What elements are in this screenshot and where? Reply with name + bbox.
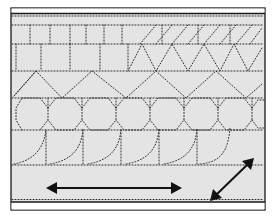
worksheet-panel: [11, 8, 265, 210]
top-strip: [12, 9, 265, 14]
tracing-worksheet: [0, 0, 278, 218]
bottom-strip: [12, 202, 265, 210]
